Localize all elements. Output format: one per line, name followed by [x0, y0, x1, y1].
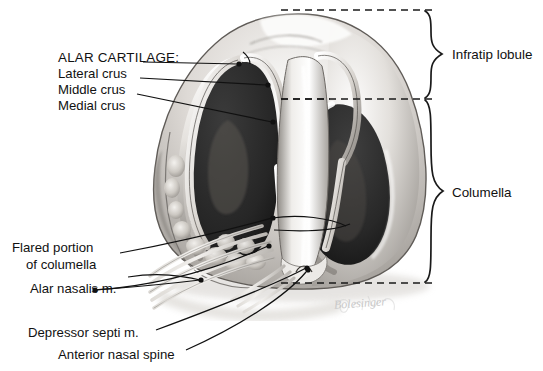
label-columella: Columella [452, 185, 512, 200]
brace-infratip-lobule [425, 11, 442, 98]
label-medial-crus: Medial crus [58, 98, 125, 113]
label-anterior-nasal-spine: Anterior nasal spine [58, 347, 175, 362]
brace-columella [425, 100, 443, 282]
label-of-columella: of columella [26, 257, 96, 272]
alar-cartilage-heading: ALAR CARTILAGE: [58, 50, 179, 65]
label-depressor-septi-muscle: Depressor septi m. [28, 325, 139, 340]
label-middle-crus: Middle crus [58, 82, 125, 97]
figure-canvas: ALAR CARTILAGE: Lateral crus Middle crus… [0, 0, 543, 371]
label-lateral-crus: Lateral crus [58, 66, 127, 81]
label-alar-nasalis-muscle: Alar nasalis m. [30, 281, 116, 296]
label-infratip-lobule: Infratip lobule [452, 47, 532, 62]
label-flared-portion: Flared portion [12, 240, 93, 255]
